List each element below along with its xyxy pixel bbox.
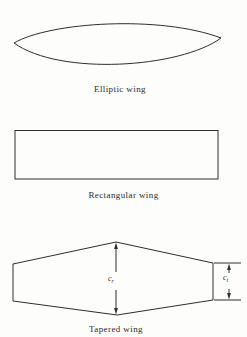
textbook-figure-page: Elliptic wing Rectangular wing Tapered w… bbox=[0, 0, 247, 337]
rectangular-wing-caption: Rectangular wing bbox=[0, 190, 247, 200]
elliptic-wing-shape bbox=[14, 24, 221, 65]
tip-chord-label: ct bbox=[223, 274, 228, 284]
elliptic-wing-caption: Elliptic wing bbox=[0, 84, 240, 94]
root-chord-arrow bbox=[114, 243, 118, 315]
root-chord-label: cr bbox=[108, 275, 114, 285]
tapered-wing-caption: Tapered wing bbox=[0, 324, 232, 334]
tip-chord-label-subscript: t bbox=[227, 277, 229, 283]
root-chord-label-subscript: r bbox=[112, 278, 114, 284]
rectangular-wing-shape bbox=[15, 131, 218, 180]
wing-planform-diagram bbox=[0, 0, 247, 337]
